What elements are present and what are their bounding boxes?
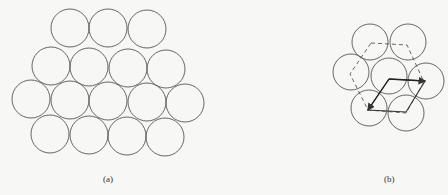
- panel-b-unit-cell: [333, 24, 444, 131]
- panel-a-circle-packing: [12, 9, 204, 156]
- panel-b-label: (b): [384, 174, 395, 184]
- circle: [166, 84, 204, 122]
- dashed-hexagon: [350, 43, 424, 113]
- circle: [89, 9, 127, 47]
- circle: [51, 81, 89, 119]
- circle: [147, 50, 185, 88]
- circle: [333, 54, 369, 90]
- panel-a-label: (a): [103, 174, 113, 184]
- circle: [12, 80, 50, 118]
- circle: [31, 115, 69, 153]
- circle: [89, 82, 127, 120]
- circle: [128, 83, 166, 121]
- circle: [390, 24, 426, 60]
- lattice-vector-arrow: [368, 79, 389, 110]
- circle: [128, 10, 166, 48]
- circle: [108, 117, 146, 155]
- circle: [109, 49, 147, 87]
- circle: [146, 118, 184, 156]
- unit-cell-rhombus: [368, 79, 425, 112]
- circle: [352, 24, 388, 60]
- circle: [32, 47, 70, 85]
- circle: [70, 116, 108, 154]
- circle: [371, 58, 407, 94]
- circle: [70, 48, 108, 86]
- circle: [51, 9, 89, 47]
- figure-canvas: [0, 0, 448, 195]
